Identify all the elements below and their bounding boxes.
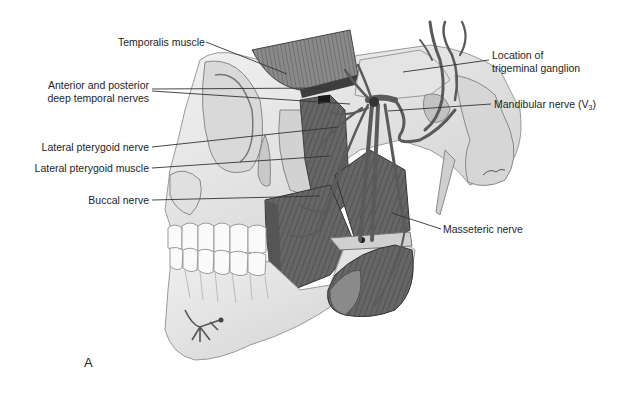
label-deep-temporal-nerves: Anterior and posterior deep temporal ner… [43, 79, 149, 104]
label-trigeminal-ganglion-line1: Location of [492, 49, 580, 62]
label-lateral-pterygoid-muscle: Lateral pterygoid muscle [33, 162, 149, 175]
label-buccal-nerve: Buccal nerve [84, 194, 149, 207]
label-trigeminal-ganglion-line2: trigeminal ganglion [492, 62, 580, 75]
anatomical-figure: Temporalis muscle Anterior and posterior… [0, 0, 626, 393]
label-masseteric-nerve: Masseteric nerve [443, 223, 523, 236]
label-mandibular-nerve-close: ) [592, 98, 596, 110]
label-deep-temporal-nerves-line2: deep temporal nerves [43, 92, 149, 105]
label-mandibular-nerve: Mandibular nerve (V3) [494, 98, 596, 115]
label-lateral-pterygoid-nerve: Lateral pterygoid nerve [41, 141, 149, 154]
label-temporalis-muscle: Temporalis muscle [118, 36, 205, 49]
trigeminal-ganglion-marker [369, 97, 379, 107]
label-mandibular-nerve-text: Mandibular nerve (V [494, 98, 589, 110]
label-deep-temporal-nerves-line1: Anterior and posterior [43, 79, 149, 92]
teeth [168, 223, 266, 276]
label-trigeminal-ganglion: Location of trigeminal ganglion [492, 49, 580, 74]
panel-letter: A [84, 355, 93, 370]
